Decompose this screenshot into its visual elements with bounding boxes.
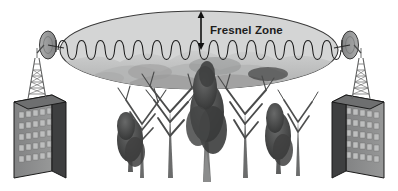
tree-right-conifer [265, 103, 293, 174]
left-site [14, 31, 66, 178]
right-dish-antenna [334, 31, 361, 59]
right-building [332, 95, 384, 178]
left-building [14, 95, 66, 178]
fresnel-zone-diagram: Fresnel Zone [0, 0, 398, 191]
right-site [332, 31, 384, 178]
left-dish-antenna [37, 31, 64, 59]
fresnel-zone-label: Fresnel Zone [210, 24, 283, 36]
